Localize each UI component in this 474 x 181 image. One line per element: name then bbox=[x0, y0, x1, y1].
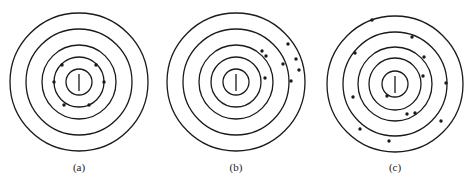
shot-dot bbox=[358, 127, 361, 130]
panel-a-label: (a) bbox=[73, 161, 85, 173]
shot-dot bbox=[289, 79, 292, 82]
target-panel-b bbox=[167, 13, 305, 151]
panel-c-label: (c) bbox=[389, 161, 401, 173]
shot-dot bbox=[405, 112, 408, 115]
shot-dot bbox=[421, 74, 424, 77]
shot-dot bbox=[264, 54, 267, 57]
shot-dot bbox=[294, 57, 297, 60]
target-panel-a bbox=[10, 13, 148, 151]
shot-dot bbox=[87, 103, 90, 106]
shot-dot bbox=[286, 42, 289, 45]
panel-b-label: (b) bbox=[230, 161, 243, 173]
shot-dot bbox=[351, 95, 354, 98]
shot-dot bbox=[62, 103, 65, 106]
shot-dot bbox=[260, 49, 263, 52]
shot-dot bbox=[387, 139, 390, 142]
shot-dot bbox=[353, 51, 356, 54]
target-diagram bbox=[0, 0, 474, 181]
shot-dot bbox=[263, 76, 266, 79]
shot-dot bbox=[102, 80, 105, 83]
shot-dot bbox=[385, 94, 388, 97]
shot-dot bbox=[439, 119, 442, 122]
shot-dot bbox=[422, 55, 425, 58]
shot-dot bbox=[444, 81, 447, 84]
shot-dot bbox=[410, 35, 413, 38]
shot-dot bbox=[370, 18, 373, 21]
shot-dot bbox=[94, 63, 97, 66]
shot-dot bbox=[297, 68, 300, 71]
shot-dot bbox=[60, 63, 63, 66]
target-panel-c bbox=[327, 16, 463, 152]
shot-dot bbox=[281, 62, 284, 65]
shot-dot bbox=[413, 111, 416, 114]
shot-dot bbox=[52, 80, 55, 83]
